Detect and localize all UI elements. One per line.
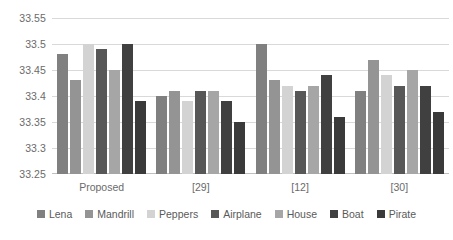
bar-boat xyxy=(221,101,232,174)
bar-group xyxy=(52,18,151,174)
bar-group xyxy=(251,18,350,174)
y-axis-tick-label: 33.3 xyxy=(25,142,46,154)
bar-airplane xyxy=(195,91,206,174)
bar-mandrill xyxy=(368,60,379,174)
bar-house xyxy=(109,70,120,174)
legend-swatch-icon xyxy=(377,210,385,218)
legend-label: Boat xyxy=(342,208,364,220)
bar-boat xyxy=(420,86,431,174)
bar-pirate xyxy=(135,101,146,174)
plot-area xyxy=(52,18,449,174)
legend-swatch-icon xyxy=(85,210,93,218)
bar-group xyxy=(350,18,449,174)
chart-legend: LenaMandrillPeppersAirplaneHouseBoatPira… xyxy=(0,208,453,220)
legend-swatch-icon xyxy=(330,210,338,218)
bar-mandrill xyxy=(169,91,180,174)
legend-swatch-icon xyxy=(37,210,45,218)
legend-swatch-icon xyxy=(147,210,155,218)
bar-airplane xyxy=(394,86,405,174)
bar-mandrill xyxy=(70,80,81,174)
bar-peppers xyxy=(83,44,94,174)
y-axis: 33.2533.333.3533.433.4533.533.55 xyxy=(0,0,52,174)
y-axis-tick-label: 33.25 xyxy=(19,168,46,180)
bar-groups xyxy=(52,18,449,174)
x-axis-category-label: [29] xyxy=(151,176,250,200)
bar-peppers xyxy=(381,75,392,174)
y-axis-tick-label: 33.5 xyxy=(25,38,46,50)
bar-pirate xyxy=(334,117,345,174)
legend-item-airplane[interactable]: Airplane xyxy=(211,208,262,220)
bar-lena xyxy=(156,96,167,174)
bar-mandrill xyxy=(269,80,280,174)
bar-lena xyxy=(256,44,267,174)
bar-lena xyxy=(355,91,366,174)
y-axis-tick-label: 33.55 xyxy=(19,12,46,24)
bar-house xyxy=(208,91,219,174)
y-axis-tick-label: 33.4 xyxy=(25,90,46,102)
bar-boat xyxy=(122,44,133,174)
bar-house xyxy=(308,86,319,174)
legend-label: House xyxy=(287,208,317,220)
bar-airplane xyxy=(295,91,306,174)
legend-label: Mandrill xyxy=(97,208,134,220)
legend-label: Peppers xyxy=(159,208,198,220)
x-axis-category-label: Proposed xyxy=(52,176,151,200)
legend-swatch-icon xyxy=(275,210,283,218)
legend-swatch-icon xyxy=(211,210,219,218)
x-axis-category-label: [30] xyxy=(350,176,449,200)
bar-airplane xyxy=(96,49,107,174)
legend-item-lena[interactable]: Lena xyxy=(37,208,72,220)
bar-boat xyxy=(321,75,332,174)
legend-item-house[interactable]: House xyxy=(275,208,317,220)
bar-pirate xyxy=(234,122,245,174)
bar-chart: 33.2533.333.3533.433.4533.533.55 Propose… xyxy=(0,0,453,240)
legend-label: Lena xyxy=(49,208,72,220)
bar-peppers xyxy=(282,86,293,174)
y-axis-tick-label: 33.45 xyxy=(19,64,46,76)
legend-item-mandrill[interactable]: Mandrill xyxy=(85,208,134,220)
legend-item-boat[interactable]: Boat xyxy=(330,208,364,220)
bar-lena xyxy=(57,54,68,174)
y-axis-tick-label: 33.35 xyxy=(19,116,46,128)
bar-group xyxy=(151,18,250,174)
bar-house xyxy=(407,70,418,174)
legend-item-pirate[interactable]: Pirate xyxy=(377,208,416,220)
x-axis: Proposed[29][12][30] xyxy=(52,176,449,200)
bar-pirate xyxy=(433,112,444,174)
legend-label: Pirate xyxy=(389,208,416,220)
bar-peppers xyxy=(182,101,193,174)
legend-label: Airplane xyxy=(223,208,262,220)
x-axis-category-label: [12] xyxy=(251,176,350,200)
legend-item-peppers[interactable]: Peppers xyxy=(147,208,198,220)
